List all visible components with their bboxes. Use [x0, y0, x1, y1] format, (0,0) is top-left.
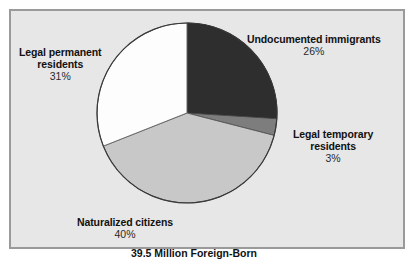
pie-chart-figure: Undocumented immigrants 26% Legal perman… — [9, 9, 405, 249]
pie-label-naturalized-citizens: Naturalized citizens 40% — [77, 217, 173, 241]
pie-label-permanent-value: 31% — [19, 71, 102, 83]
pie-label-temporary-value: 3% — [293, 153, 373, 165]
chart-caption: 39.5 Million Foreign-Born — [131, 247, 257, 259]
pie-label-temporary-name-line2: residents — [293, 141, 373, 153]
pie-label-permanent-name-line1: Legal permanent — [19, 47, 102, 59]
pie-label-undocumented-name: Undocumented immigrants — [247, 34, 381, 46]
pie-label-naturalized-name: Naturalized citizens — [77, 217, 173, 229]
pie-label-undocumented-immigrants: Undocumented immigrants 26% — [247, 34, 381, 58]
cropped-title-strip — [0, 0, 418, 8]
pie-label-legal-temporary-residents: Legal temporary residents 3% — [293, 129, 373, 164]
pie-label-naturalized-value: 40% — [77, 229, 173, 241]
pie-label-undocumented-value: 26% — [247, 46, 381, 58]
pie-label-temporary-name-line1: Legal temporary — [293, 129, 373, 141]
pie-label-legal-permanent-residents: Legal permanent residents 31% — [19, 47, 102, 82]
pie-label-permanent-name-line2: residents — [19, 59, 102, 71]
